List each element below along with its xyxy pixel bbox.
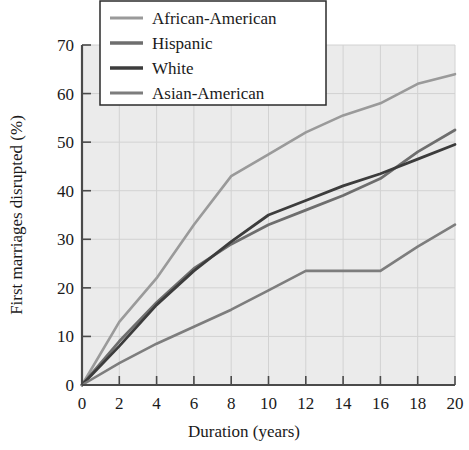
x-tick-label: 6 — [190, 394, 199, 413]
x-tick-label: 2 — [115, 394, 124, 413]
legend-label: White — [152, 59, 194, 78]
legend-label: Hispanic — [152, 34, 213, 53]
y-tick-label: 10 — [57, 327, 74, 346]
y-tick-label: 70 — [57, 36, 74, 55]
x-tick-label: 0 — [78, 394, 87, 413]
y-tick-label: 40 — [57, 182, 74, 201]
y-tick-label: 30 — [57, 230, 74, 249]
legend-label: African-American — [152, 9, 277, 28]
legend: African-AmericanHispanicWhiteAsian-Ameri… — [100, 1, 326, 105]
y-axis-title: First marriages disrupted (%) — [7, 115, 26, 315]
x-tick-label: 16 — [372, 394, 389, 413]
y-tick-label: 60 — [57, 85, 74, 104]
x-tick-label: 12 — [297, 394, 314, 413]
x-tick-label: 10 — [260, 394, 277, 413]
y-tick-label: 0 — [66, 376, 75, 395]
legend-label: Asian-American — [152, 84, 265, 103]
x-tick-label: 4 — [152, 394, 161, 413]
y-tick-label: 50 — [57, 133, 74, 152]
x-tick-label: 8 — [227, 394, 236, 413]
line-chart: 02468101214161820 010203040506070 Durati… — [0, 0, 469, 450]
x-tick-label: 18 — [409, 394, 426, 413]
x-tick-label: 14 — [335, 394, 353, 413]
y-tick-label: 20 — [57, 279, 74, 298]
x-tick-label: 20 — [447, 394, 464, 413]
x-axis-title: Duration (years) — [188, 422, 300, 441]
